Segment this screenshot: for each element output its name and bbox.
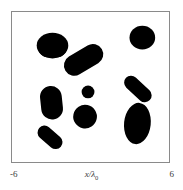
blob-upper-left-lobe [38,35,68,58]
x-axis-tick-max: 6 [170,168,175,180]
axis-label-row: -6 x/λ0 6 [0,163,183,190]
blob-upper-right-circle [130,26,156,50]
x-axis-title: x/λ0 [0,168,183,184]
figure-container: -6 x/λ0 6 [0,0,183,190]
blob-canvas [12,12,169,162]
x-axis-title-subscript: 0 [95,174,98,181]
blob-center-dot [82,86,95,99]
plot-frame [11,11,170,163]
